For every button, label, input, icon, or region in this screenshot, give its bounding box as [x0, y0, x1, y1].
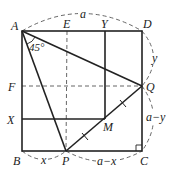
angle-label-45: 45°	[29, 41, 45, 53]
label-A: A	[10, 19, 19, 33]
right-angle-marker-C	[136, 145, 142, 151]
geometry-diagram: 45° A E Y D F Q X M B P C a y a−y x a−x	[0, 0, 171, 177]
label-M: M	[102, 120, 114, 134]
line-AQ	[22, 31, 142, 86]
label-P: P	[61, 154, 70, 168]
label-Y: Y	[101, 17, 109, 31]
line-EP	[66, 31, 67, 151]
measure-x: x	[40, 153, 47, 167]
label-E: E	[62, 17, 71, 31]
label-D: D	[142, 17, 152, 31]
measure-a-minus-y: a−y	[146, 110, 166, 124]
measure-y: y	[151, 51, 158, 65]
label-F: F	[7, 80, 16, 94]
label-B: B	[13, 154, 21, 168]
measure-a-minus-x: a−x	[97, 154, 117, 168]
label-C: C	[140, 154, 149, 168]
label-X: X	[6, 113, 15, 127]
label-Q: Q	[146, 80, 155, 94]
measure-a: a	[80, 7, 86, 21]
